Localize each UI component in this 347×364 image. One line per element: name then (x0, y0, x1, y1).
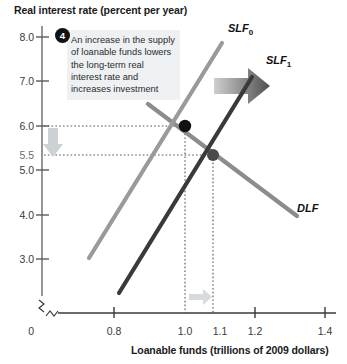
annotation-step-badge: 4 (55, 28, 70, 43)
annotation-callout: An increase in the supply of loanable fu… (67, 30, 180, 100)
shift-arrow (214, 68, 270, 104)
curve-dlf (148, 104, 297, 216)
curve-label-slf1-sub: 1 (287, 60, 291, 69)
curve-label-slf0-text: SLF (228, 22, 249, 34)
curve-label-slf1-text: SLF (266, 54, 287, 66)
annotation-callout-text: An increase in the supply of loanable fu… (71, 34, 176, 95)
equilibrium-point-initial (179, 120, 191, 132)
curve-label-dlf: DLF (297, 202, 318, 214)
rate-fall-arrow (43, 128, 63, 157)
curve-label-slf0-sub: 0 (249, 28, 253, 37)
projection-guides (44, 126, 213, 313)
equilibrium-point-new (207, 149, 219, 161)
x-axis-break-icon (46, 311, 58, 316)
curve-label-slf0: SLF0 (228, 22, 253, 37)
loanable-funds-chart: Real interest rate (percent per year) 8.… (0, 0, 347, 364)
funds-rise-arrow (189, 289, 212, 305)
y-axis-break-icon (39, 300, 44, 312)
curve-label-slf1: SLF1 (266, 54, 291, 69)
